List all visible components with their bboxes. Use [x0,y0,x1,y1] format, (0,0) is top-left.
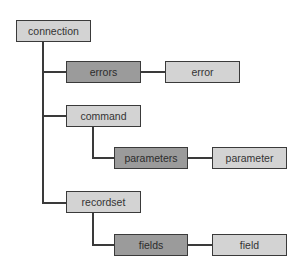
node-errors: errors [66,61,141,83]
node-fields-label: fields [139,239,164,251]
node-field: field [212,234,287,256]
node-recordset: recordset [66,191,141,213]
node-parameter-label: parameter [226,152,274,164]
connector-fields-field [188,244,212,246]
node-parameters-label: parameters [124,152,177,164]
connector-connection-command [42,115,66,117]
object-model-diagram: connection errors error command paramete… [0,0,302,271]
connector-connection-recordset [42,202,66,204]
connector-command-parameters [92,157,114,159]
node-command: command [66,105,141,127]
connector-connection-errors [42,71,66,73]
connector-recordset-fields [92,244,114,246]
connector-recordset-trunk [92,213,94,245]
connector-errors-error [141,71,165,73]
node-connection-label: connection [28,25,79,37]
node-fields: fields [114,234,188,256]
node-command-label: command [80,110,126,122]
connector-parameters-parameter [188,157,212,159]
node-errors-label: errors [90,66,117,78]
connector-command-trunk [92,127,94,158]
node-connection: connection [16,20,91,42]
node-field-label: field [240,239,259,251]
node-error: error [165,61,240,83]
node-parameter: parameter [212,147,287,169]
connector-connection-trunk [42,42,44,203]
node-parameters: parameters [114,147,188,169]
node-error-label: error [191,66,213,78]
node-recordset-label: recordset [82,196,126,208]
